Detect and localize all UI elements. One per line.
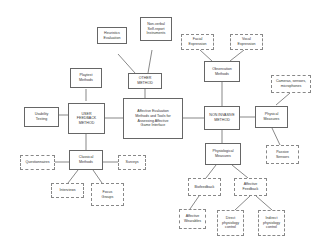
node-biofeedback: Biofeedback bbox=[188, 178, 221, 196]
label: Heuristics Evaluation bbox=[104, 31, 121, 40]
node-observation-methods: Observation Methods bbox=[204, 61, 240, 82]
label: Indirect physiology control bbox=[263, 216, 280, 230]
node-indirect-physiology-control: Indirect physiology control bbox=[258, 210, 285, 236]
label: Facial Expression bbox=[189, 37, 207, 46]
node-facial-expression: Facial Expression bbox=[181, 34, 214, 50]
label: Physical Measures bbox=[264, 112, 280, 121]
node-questionnaires: Questionnaires bbox=[20, 155, 55, 170]
label: Physiological Measures bbox=[213, 149, 234, 158]
node-non-invasive-method: NON INVASIVE METHOD bbox=[204, 106, 240, 130]
node-nonverbal-self-report: Non-verbal Self-report Instruments bbox=[140, 17, 172, 41]
node-cameras-sensors-microphones: Cameras, sensors, microphones bbox=[271, 75, 311, 93]
node-heuristics-evaluation: Heuristics Evaluation bbox=[97, 27, 127, 44]
node-affective-feedback: Affective Feedback bbox=[234, 178, 267, 196]
label: Passive Sensors bbox=[276, 150, 289, 159]
node-passive-sensors: Passive Sensors bbox=[266, 145, 299, 164]
label: Affective Evaluation Methods and Tools f… bbox=[135, 109, 170, 127]
label: Non-verbal Self-report Instruments bbox=[147, 22, 166, 36]
node-direct-physiology-control: Direct physiology control bbox=[217, 210, 244, 236]
label: NON INVASIVE METHOD bbox=[209, 113, 234, 122]
label: Biofeedback bbox=[195, 185, 215, 190]
label: Playtest Methods bbox=[79, 73, 93, 82]
label: Usability Testing bbox=[35, 112, 49, 121]
node-other-method: OTHER METHOD bbox=[128, 73, 162, 89]
label: Questionnaires bbox=[25, 160, 49, 165]
node-physical-measures: Physical Measures bbox=[255, 106, 288, 128]
node-classical-methods: Classical Methods bbox=[69, 150, 103, 170]
label: Affective Wearables bbox=[184, 214, 201, 223]
label: Surveys bbox=[126, 160, 139, 165]
node-interviews: Interviews bbox=[51, 183, 84, 198]
node-usability-testing: Usability Testing bbox=[24, 107, 59, 127]
node-focus-groups: Focus Groups bbox=[91, 183, 124, 206]
label: Vocal Expression bbox=[238, 37, 256, 46]
label: Classical Methods bbox=[79, 155, 93, 164]
node-physiological-measures: Physiological Measures bbox=[205, 143, 241, 165]
node-playtest-methods: Playtest Methods bbox=[70, 68, 102, 88]
node-vocal-expression: Vocal Expression bbox=[230, 34, 263, 50]
label: Observation Methods bbox=[212, 67, 231, 76]
label: OTHER METHOD bbox=[137, 76, 153, 85]
label: Affective Feedback bbox=[243, 182, 259, 191]
label: USER FEEDBACK METHOD bbox=[77, 112, 96, 126]
label: Direct physiology control bbox=[222, 216, 239, 230]
node-affective-evaluation-root: Affective Evaluation Methods and Tools f… bbox=[123, 98, 183, 139]
label: Interviews bbox=[59, 188, 75, 193]
label: Cameras, sensors, microphones bbox=[276, 79, 306, 88]
label: Focus Groups bbox=[102, 190, 114, 199]
node-affective-wearables: Affective Wearables bbox=[179, 209, 206, 229]
node-user-feedback-method: USER FEEDBACK METHOD bbox=[68, 103, 105, 134]
node-surveys: Surveys bbox=[118, 155, 146, 170]
